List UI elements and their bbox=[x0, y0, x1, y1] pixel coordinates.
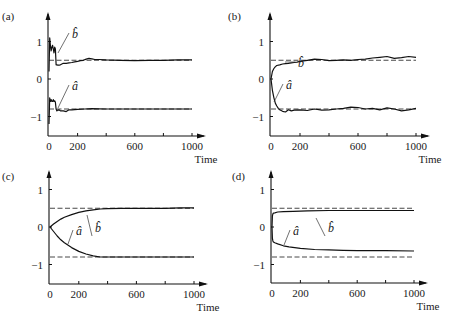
y-tick-label: 1 bbox=[260, 184, 266, 196]
panel-label: (b) bbox=[228, 10, 241, 23]
y-tick-label: 0 bbox=[260, 221, 266, 233]
annotation-a-hat: â bbox=[286, 78, 292, 92]
series-a-hat bbox=[271, 79, 416, 112]
y-tick-label: 1 bbox=[38, 184, 44, 196]
panel-label: (a) bbox=[2, 10, 15, 23]
annotation-leader bbox=[58, 33, 69, 53]
y-tick-label: −1 bbox=[31, 259, 43, 271]
annotation-a-hat: â bbox=[293, 224, 299, 238]
x-tick-label: 1000 bbox=[403, 287, 426, 299]
series-b-hat bbox=[49, 38, 192, 72]
y-axis-arrow-icon bbox=[269, 170, 274, 178]
annotation-leader bbox=[284, 230, 290, 245]
annotation-leader bbox=[316, 218, 325, 236]
series-a-hat bbox=[50, 227, 194, 257]
series-a-hat bbox=[49, 98, 192, 124]
y-tick-label: 1 bbox=[259, 36, 265, 48]
y-tick-label: 0 bbox=[259, 73, 265, 85]
y-tick-label: −1 bbox=[253, 259, 265, 271]
x-tick-label: 0 bbox=[269, 287, 275, 299]
annotation-a-hat: â bbox=[72, 79, 78, 93]
x-tick-label: 1000 bbox=[183, 288, 206, 300]
x-tick-label: 200 bbox=[292, 287, 309, 299]
x-axis-arrow-icon bbox=[419, 281, 428, 286]
annotation-leader bbox=[87, 215, 92, 236]
x-axis-label: Time bbox=[195, 153, 218, 165]
x-axis-label: Time bbox=[417, 300, 440, 312]
x-tick-label: 1000 bbox=[181, 140, 204, 152]
y-tick-label: 0 bbox=[38, 221, 44, 233]
x-tick-label: 0 bbox=[46, 140, 52, 152]
x-tick-label: 600 bbox=[128, 288, 145, 300]
x-tick-label: 600 bbox=[127, 140, 144, 152]
panel-d: (d)10−102006001000Timeb̂â bbox=[232, 170, 440, 312]
y-tick-label: −1 bbox=[30, 111, 42, 123]
annotation-b-hat: b̂ bbox=[72, 27, 78, 41]
chart-svg: (a)10−102006001000Timeb̂â(b)10−10200600… bbox=[0, 0, 450, 330]
x-axis-arrow-icon bbox=[197, 134, 206, 139]
annotation-b-hat: b̂ bbox=[328, 221, 334, 235]
annotation-b-hat: b̂ bbox=[298, 56, 304, 70]
x-tick-label: 200 bbox=[292, 140, 309, 152]
y-axis-arrow-icon bbox=[268, 12, 273, 20]
annotation-a-hat: â bbox=[76, 224, 82, 238]
x-tick-label: 600 bbox=[349, 287, 366, 299]
x-axis-arrow-icon bbox=[199, 282, 208, 287]
x-tick-label: 0 bbox=[268, 140, 274, 152]
x-tick-label: 600 bbox=[350, 140, 367, 152]
annotation-leader bbox=[274, 84, 283, 102]
panel-b: (b)10−102006001000Timeb̂â bbox=[228, 10, 442, 165]
x-axis-label: Time bbox=[197, 301, 220, 313]
y-tick-label: 0 bbox=[37, 73, 43, 85]
annotation-b-hat: b̂ bbox=[95, 221, 101, 235]
x-tick-label: 0 bbox=[47, 288, 53, 300]
y-axis-arrow-icon bbox=[47, 170, 52, 178]
series-b-hat bbox=[50, 208, 194, 227]
x-axis-arrow-icon bbox=[421, 134, 430, 139]
y-tick-label: 1 bbox=[37, 36, 43, 48]
figure: (a)10−102006001000Timeb̂â(b)10−10200600… bbox=[0, 0, 450, 330]
panel-c: (c)10−102006001000Timeb̂â bbox=[2, 170, 220, 313]
x-axis-label: Time bbox=[419, 153, 442, 165]
panel-a: (a)10−102006001000Timeb̂â bbox=[2, 10, 218, 165]
panel-label: (d) bbox=[232, 170, 245, 183]
panel-label: (c) bbox=[2, 170, 15, 183]
x-tick-label: 1000 bbox=[405, 140, 428, 152]
y-axis-arrow-icon bbox=[46, 12, 51, 20]
x-tick-label: 200 bbox=[71, 288, 88, 300]
y-tick-label: −1 bbox=[252, 111, 264, 123]
x-tick-label: 200 bbox=[69, 140, 86, 152]
annotation-leader bbox=[68, 230, 73, 244]
annotation-leader bbox=[58, 85, 69, 108]
